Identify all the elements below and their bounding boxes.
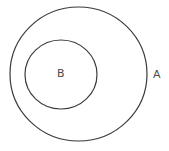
set-a-label: A — [153, 68, 161, 81]
venn-diagram: B A — [0, 0, 169, 151]
set-b-label: B — [57, 67, 65, 80]
set-a-circle — [10, 7, 147, 141]
